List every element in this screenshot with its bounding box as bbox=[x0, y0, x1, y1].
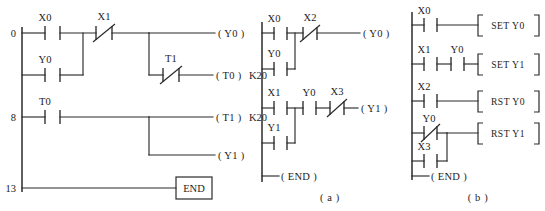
a-contact-x0: X0 bbox=[267, 13, 287, 40]
b-contact-label-x2: X2 bbox=[417, 81, 430, 92]
b-bracket-right-rst-y1 bbox=[534, 123, 539, 144]
ladder-diagram-figure: X0 X1 Y0 ( Y0 ) T1 bbox=[0, 0, 545, 211]
b-instruction-label-rst-y0: RST Y0 bbox=[491, 96, 525, 107]
a-contact-label-y1-branch: Y1 bbox=[267, 122, 280, 133]
contact-label-x0: X0 bbox=[38, 12, 51, 23]
a-contact-x2: X2 bbox=[300, 12, 320, 42]
a-contact-label-x0: X0 bbox=[267, 13, 280, 24]
b-instruction-rst-y0: RST Y0 bbox=[478, 91, 539, 112]
coil-label-y1: ( Y1 ) bbox=[218, 150, 245, 162]
a-contact-label-x3: X3 bbox=[330, 86, 343, 97]
diagram-b: X0 SET Y0 X1 Y0 SET Y1 bbox=[412, 5, 539, 204]
contact-label-t0: T0 bbox=[39, 96, 51, 107]
contact-t1-rung0: T1 bbox=[160, 53, 182, 84]
b-instruction-label-set-y1: SET Y1 bbox=[491, 59, 525, 70]
b-end-label: ( END ) bbox=[431, 171, 467, 183]
contact-y0-rung0-branch: Y0 bbox=[38, 54, 60, 82]
contact-label-x1: X1 bbox=[97, 11, 110, 22]
a-contact-label-x1: X1 bbox=[267, 87, 280, 98]
coil-label-t1: ( T1 ) bbox=[216, 112, 242, 124]
b-contact-label-y0-nc: Y0 bbox=[422, 113, 435, 124]
step-number-8: 8 bbox=[11, 112, 16, 123]
ladder-diagram-canvas: X0 X1 Y0 ( Y0 ) T1 bbox=[0, 0, 545, 211]
a-contact-y0-branch: Y0 bbox=[267, 48, 287, 76]
a-contact-x3: X3 bbox=[327, 86, 347, 117]
b-bracket-right-set-y1 bbox=[534, 54, 539, 75]
b-contact-x0: X0 bbox=[417, 5, 437, 32]
a-contact-y1-branch: Y1 bbox=[267, 122, 287, 150]
b-instruction-label-rst-y1: RST Y1 bbox=[491, 128, 525, 139]
b-contact-x2: X2 bbox=[417, 81, 437, 108]
b-bracket-left-rst-y1 bbox=[478, 123, 483, 144]
b-bracket-right-set-y0 bbox=[534, 15, 539, 36]
coil-label-t0: ( T0 ) bbox=[216, 70, 242, 82]
a-coil-label-y1: ( Y1 ) bbox=[361, 103, 388, 115]
b-contact-y0-series: Y0 bbox=[450, 44, 464, 71]
b-bracket-left-set-y1 bbox=[478, 54, 483, 75]
diagram-left: X0 X1 Y0 ( Y0 ) T1 bbox=[6, 11, 268, 199]
a-contact-label-x2: X2 bbox=[303, 12, 316, 23]
diagram-a: X0 X2 ( Y0 ) Y0 X1 bbox=[262, 12, 390, 204]
b-instruction-set-y1: SET Y1 bbox=[478, 54, 539, 75]
contact-label-y0-branch: Y0 bbox=[38, 54, 51, 65]
contact-label-t1: T1 bbox=[165, 53, 177, 64]
contact-x0-rung0: X0 bbox=[38, 12, 60, 40]
constant-k20-t1: K20 bbox=[249, 112, 267, 123]
caption-a: ( a ) bbox=[320, 192, 340, 204]
caption-b: ( b ) bbox=[468, 192, 489, 204]
step-number-0: 0 bbox=[11, 28, 16, 39]
b-bracket-left-set-y0 bbox=[478, 15, 483, 36]
step-number-13: 13 bbox=[6, 183, 17, 194]
b-contact-x3: X3 bbox=[417, 141, 437, 168]
b-contact-label-x0: X0 bbox=[417, 5, 430, 16]
contact-x1-rung0: X1 bbox=[93, 11, 115, 42]
a-end-label: ( END ) bbox=[281, 171, 317, 183]
contact-t0-rung8: T0 bbox=[39, 96, 60, 124]
b-instruction-label-set-y0: SET Y0 bbox=[491, 20, 525, 31]
a-contact-label-y0-series: Y0 bbox=[302, 87, 315, 98]
a-coil-label-y0: ( Y0 ) bbox=[363, 28, 390, 40]
b-contact-x1: X1 bbox=[417, 44, 437, 71]
a-contact-x1: X1 bbox=[267, 87, 287, 115]
end-box-label: END bbox=[183, 183, 205, 194]
b-instruction-set-y0: SET Y0 bbox=[478, 15, 539, 36]
b-contact-label-y0-series: Y0 bbox=[450, 44, 463, 55]
b-bracket-left-rst-y0 bbox=[478, 91, 483, 112]
a-contact-label-y0-branch: Y0 bbox=[267, 48, 280, 59]
b-contact-label-x1: X1 bbox=[417, 44, 430, 55]
b-contact-label-x3: X3 bbox=[417, 141, 430, 152]
b-instruction-rst-y1: RST Y1 bbox=[478, 123, 539, 144]
coil-label-y0: ( Y0 ) bbox=[218, 28, 245, 40]
b-bracket-right-rst-y0 bbox=[534, 91, 539, 112]
b-contact-y0-nc: Y0 bbox=[421, 113, 440, 142]
constant-k20-t0: K20 bbox=[249, 70, 267, 81]
a-contact-y0-series: Y0 bbox=[302, 87, 316, 115]
coil-y0-rung0: ( Y0 ) bbox=[218, 28, 245, 40]
